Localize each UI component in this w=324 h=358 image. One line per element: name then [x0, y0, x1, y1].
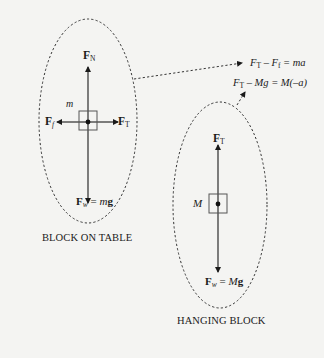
tension-force-label-hanging: FT — [213, 133, 225, 146]
tension-force-label-table: FT — [118, 116, 130, 129]
mass-label-m: m — [66, 99, 73, 109]
hanging-block-vectors — [209, 145, 227, 272]
weight-force-label-hanging: Fw = Mg — [205, 276, 243, 289]
leader-line-table — [134, 63, 242, 79]
normal-force-label: FN — [83, 50, 95, 63]
equation-block-on-table: FT – Ff = ma — [250, 57, 306, 70]
mass-label-M: M — [193, 198, 202, 209]
friction-force-label: Ff — [45, 116, 54, 129]
hanging-block-caption: HANGING BLOCK — [177, 315, 266, 326]
block-on-table-vectors — [57, 67, 118, 203]
weight-force-label-table: Fw = mg — [76, 196, 113, 209]
diagram-canvas — [0, 0, 324, 358]
block-on-table-caption: BLOCK ON TABLE — [42, 232, 132, 243]
leader-line-hanging — [237, 92, 245, 105]
equation-hanging-block: FT – Mg = M(–a) — [233, 77, 307, 90]
